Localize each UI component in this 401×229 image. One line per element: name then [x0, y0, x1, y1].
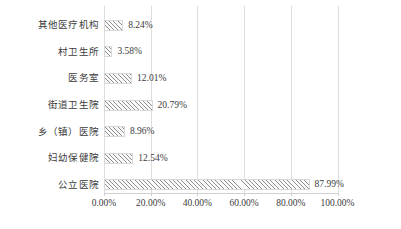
category-label: 医务室	[0, 72, 99, 84]
bar-row: 公立医院 87.99%	[0, 172, 401, 199]
bar-group: 8.24%	[104, 20, 153, 31]
bar-row: 街道卫生院 20.79%	[0, 92, 401, 119]
bar-group: 87.99%	[104, 179, 344, 190]
bar	[104, 20, 123, 31]
x-tick-label: 60.00%	[229, 197, 258, 209]
x-tick-0	[104, 193, 105, 196]
x-tick-label: 20.00%	[136, 197, 165, 209]
x-tick-label: 80.00%	[276, 197, 305, 209]
bar	[104, 46, 112, 57]
bar-group: 8.96%	[104, 126, 154, 137]
x-tick-20	[151, 193, 152, 196]
value-label: 12.01%	[137, 73, 166, 84]
bar-group: 12.54%	[104, 153, 168, 164]
bar	[104, 73, 132, 84]
bar-row: 乡（镇）医院 8.96%	[0, 118, 401, 145]
value-label: 3.58%	[117, 46, 142, 57]
category-label: 妇幼保健院	[0, 152, 99, 164]
bar-group: 12.01%	[104, 73, 166, 84]
x-tick-40	[197, 193, 198, 196]
category-label: 乡（镇）医院	[0, 126, 99, 138]
bar-group: 3.58%	[104, 46, 142, 57]
bar-row: 其他医疗机构 8.24%	[0, 12, 401, 39]
bar-group: 20.79%	[104, 100, 187, 111]
value-label: 8.24%	[128, 20, 153, 31]
category-label: 其他医疗机构	[0, 19, 99, 31]
bar-row: 医务室 12.01%	[0, 65, 401, 92]
bar	[104, 126, 125, 137]
x-tick-label: 40.00%	[183, 197, 212, 209]
x-tick-60	[244, 193, 245, 196]
x-tick-100	[338, 193, 339, 196]
category-label: 街道卫生院	[0, 99, 99, 111]
x-tick-label: 100.00%	[320, 197, 354, 209]
value-label: 20.79%	[158, 100, 187, 111]
bar	[104, 179, 310, 190]
bar-row: 妇幼保健院 12.54%	[0, 145, 401, 172]
bar	[104, 153, 133, 164]
x-axis-line	[104, 193, 338, 194]
category-label: 村卫生所	[0, 46, 99, 58]
value-label: 87.99%	[315, 179, 344, 190]
x-tick-label: 0.00%	[92, 197, 117, 209]
bar-row: 村卫生所 3.58%	[0, 39, 401, 66]
value-label: 8.96%	[130, 126, 155, 137]
category-label: 公立医院	[0, 179, 99, 191]
value-label: 12.54%	[138, 153, 167, 164]
x-tick-80	[291, 193, 292, 196]
bar	[104, 100, 153, 111]
horizontal-bar-chart: 其他医疗机构 8.24% 村卫生所 3.58% 医务室 12.01% 街道卫生院…	[0, 0, 401, 229]
